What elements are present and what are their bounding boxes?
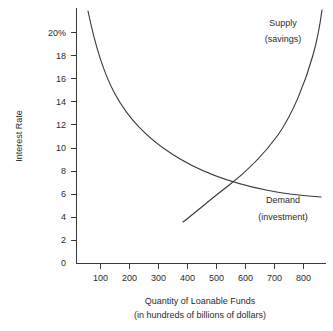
supply-label-line2: (savings) [265,34,302,44]
x-tick-label-600: 600 [238,273,253,283]
y-tick-label-6: 6 [61,189,66,199]
x-tick-label-200: 200 [122,273,137,283]
x-tick-label-700: 700 [267,273,282,283]
x-tick-label-100: 100 [93,273,108,283]
y-tick-label-16: 16 [56,74,66,84]
demand-label-line1: Demand [266,195,300,205]
x-axis-title: Quantity of Loanable Funds [145,296,256,306]
chart-background [0,0,333,331]
loanable-funds-market-chart: 20% 18 16 14 12 10 8 6 4 2 0 100 200 [0,0,333,331]
y-tick-label-18: 18 [56,51,66,61]
x-tick-label-400: 400 [180,273,195,283]
x-axis-subtitle: (in hundreds of billions of dollars) [134,310,266,320]
x-tick-label-800: 800 [296,273,311,283]
y-tick-label-10: 10 [56,143,66,153]
chart-svg: 20% 18 16 14 12 10 8 6 4 2 0 100 200 [0,0,333,331]
y-tick-label-2: 2 [61,235,66,245]
y-tick-label-4: 4 [61,212,66,222]
y-tick-label-8: 8 [61,166,66,176]
supply-label-line1: Supply [269,18,297,28]
y-tick-label-12: 12 [56,120,66,130]
y-axis-title: Interest Rate [14,110,24,162]
demand-label-line2: (investment) [258,212,308,222]
y-tick-label-14: 14 [56,97,66,107]
y-tick-label-20: 20% [48,28,66,38]
x-tick-label-300: 300 [151,273,166,283]
x-tick-label-500: 500 [209,273,224,283]
y-tick-label-0: 0 [61,258,66,268]
